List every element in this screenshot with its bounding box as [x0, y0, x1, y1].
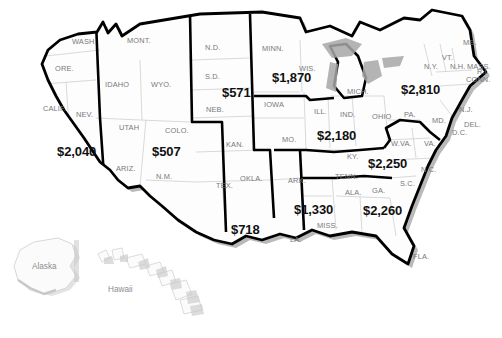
hawaii-inset: [98, 248, 204, 316]
map-graphic: [0, 0, 502, 338]
alaska-inset: [14, 238, 80, 296]
map-land: [42, 10, 486, 264]
us-regional-value-map: $2,040 $507 $571 $1,870 $2,180 $2,810 $2…: [0, 0, 502, 338]
